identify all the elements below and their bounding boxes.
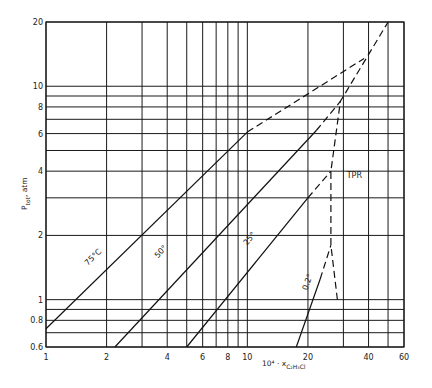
x-tick-label: 8 bbox=[225, 353, 230, 362]
x-tick-label: 20 bbox=[303, 353, 313, 362]
x-tick-label: 6 bbox=[200, 353, 205, 362]
y-tick-label: 1 bbox=[38, 296, 43, 305]
plot-frame bbox=[46, 22, 404, 347]
curve-label-75-c: 75°C bbox=[83, 247, 104, 268]
curve-label-25: 25° bbox=[242, 230, 258, 247]
curve-25-dashed bbox=[308, 171, 331, 198]
y-tick-label: 0.8 bbox=[30, 316, 43, 325]
x-tick-label: 4 bbox=[165, 353, 170, 362]
y-tick-label: 6 bbox=[38, 130, 43, 139]
x-tick-label: 40 bbox=[363, 353, 373, 362]
curve-tpr-dashed bbox=[331, 22, 388, 300]
curve-label-tpr: TPR bbox=[346, 171, 363, 180]
curves bbox=[46, 22, 388, 347]
x-tick-label: 1 bbox=[43, 353, 48, 362]
curve-50-dashed bbox=[316, 101, 340, 130]
y-tick-label: 8 bbox=[38, 103, 43, 112]
x-tick-label: 60 bbox=[399, 353, 409, 362]
tick-labels: 12468102040600.60.8124681020 bbox=[30, 18, 409, 362]
x-tick-label: 10 bbox=[242, 353, 252, 362]
x-axis-label: 10⁴ · xC₂H₃Cl bbox=[262, 359, 306, 370]
y-tick-label: 4 bbox=[38, 167, 43, 176]
curve-label-50: 50° bbox=[153, 243, 169, 260]
grid bbox=[46, 22, 404, 347]
chart: 12468102040600.60.8124681020 75°C50°25°0… bbox=[0, 0, 432, 388]
x-tick-label: 2 bbox=[104, 353, 109, 362]
y-axis-label: Ptot, atm bbox=[20, 177, 31, 210]
y-tick-label: 10 bbox=[33, 82, 43, 91]
curve-0-2-dashed bbox=[320, 245, 331, 279]
y-tick-label: 0.6 bbox=[30, 343, 43, 352]
y-tick-label: 20 bbox=[33, 18, 43, 27]
curve-75-c-dashed bbox=[247, 58, 364, 132]
curve-label-0-2: 0.2° bbox=[301, 273, 315, 292]
y-tick-label: 2 bbox=[38, 231, 43, 240]
